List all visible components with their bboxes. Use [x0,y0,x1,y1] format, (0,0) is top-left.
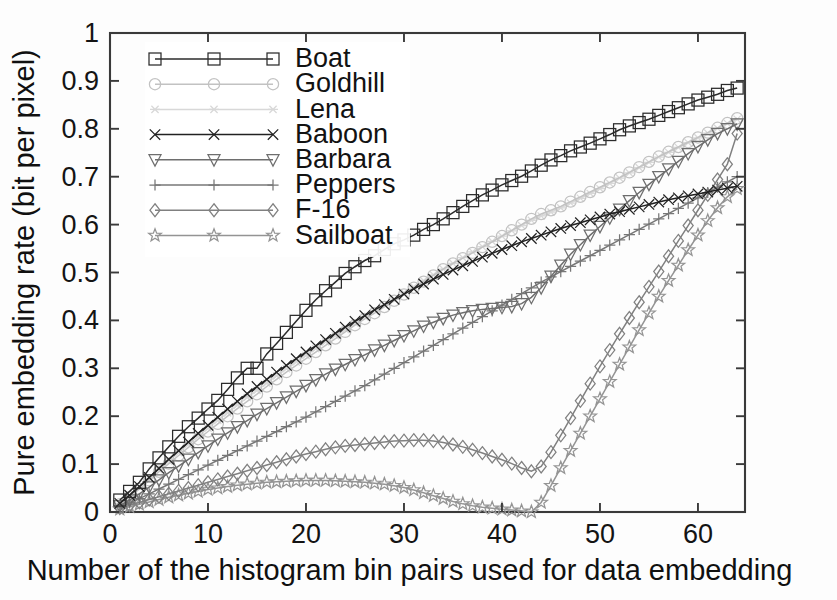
marker-plus [447,328,458,339]
marker-plus [575,255,586,266]
marker-plus [408,351,419,362]
y-tick-label: 0.1 [61,449,99,479]
y-tick-label: 0.4 [61,305,99,335]
marker-plus [261,431,272,442]
marker-plus [722,176,733,187]
marker-x [536,230,546,240]
y-tick-label: 0.6 [61,210,99,240]
y-tick-label: 0.9 [61,66,99,96]
marker-x [565,220,575,230]
marker-plus [624,229,635,240]
marker-x [654,197,664,207]
marker-plus [594,245,605,256]
marker-plus [271,426,282,437]
marker-plus [173,474,184,485]
chart-figure: 00.10.20.30.40.50.60.70.80.9101020304050… [0,0,837,600]
marker-plus [340,390,351,401]
marker-plus [310,406,321,417]
marker-x [507,240,517,250]
y-tick-label: 0.8 [61,114,99,144]
marker-plus [300,412,311,423]
marker-plus [242,440,253,451]
legend-label: Sailboat [295,220,393,250]
marker-plus [379,368,390,379]
marker-x [526,233,536,243]
marker-x [487,248,497,258]
marker-plus [232,445,243,456]
marker-x [438,269,448,279]
marker-plus [202,459,213,470]
marker-plus [585,250,596,261]
marker-plus [281,421,292,432]
marker-plus [193,464,204,475]
marker-x [575,217,585,227]
marker-plus [663,208,674,219]
marker-x [634,202,644,212]
marker-x [458,261,468,271]
marker-plus [653,213,664,224]
marker-x [497,244,507,254]
marker-x [546,227,556,237]
marker-x [644,199,654,209]
x-tick-label: 60 [683,519,713,549]
marker-plus [359,380,370,391]
marker-plus [673,203,684,214]
marker-plus [643,219,654,230]
marker-plus [349,385,360,396]
y-tick-label: 0.5 [61,258,99,288]
x-tick-label: 50 [585,519,615,549]
x-tick-label: 10 [193,519,223,549]
marker-plus [398,357,409,368]
y-tick-label: 0.7 [61,162,99,192]
marker-plus [251,436,262,447]
x-axis-label: Number of the histogram bin pairs used f… [27,554,793,586]
marker-plus [438,334,449,345]
marker-plus [428,340,439,351]
marker-plus [369,374,380,385]
marker-plus [634,224,645,235]
y-axis-label: Pure embedding rate (bit per pixel) [8,49,40,496]
y-tick-label: 0.3 [61,353,99,383]
marker-plus [212,455,223,466]
marker-x [448,265,458,275]
x-tick-label: 0 [102,519,117,549]
chart-canvas: 00.10.20.30.40.50.60.70.80.9101020304050… [0,0,837,600]
marker-x [477,252,487,262]
y-tick-label: 0 [84,497,99,527]
x-tick-label: 30 [389,519,419,549]
marker-plus [604,240,615,251]
y-tick-label: 1 [84,18,99,48]
marker-plus [320,401,331,412]
marker-plus [418,345,429,356]
legend: BoatGoldhillLenaBaboonBarbaraPeppersF-16… [145,42,410,257]
x-tick-label: 40 [487,519,517,549]
marker-x [585,215,595,225]
y-tick-label: 0.2 [61,401,99,431]
marker-x [516,237,526,247]
marker-plus [330,396,341,407]
marker-plus [291,416,302,427]
marker-plus [565,261,576,272]
marker-x [556,223,566,233]
marker-plus [614,234,625,245]
marker-plus [389,363,400,374]
marker-plus [183,469,194,480]
marker-plus [222,450,233,461]
marker-plus [457,322,468,333]
marker-x [595,212,605,222]
x-tick-label: 20 [291,519,321,549]
